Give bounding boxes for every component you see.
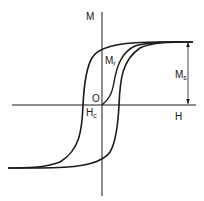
origin-label: O bbox=[92, 94, 100, 104]
h-axis-label: H bbox=[175, 112, 182, 122]
coercivity-label-sub: c bbox=[93, 112, 97, 119]
saturation-label-sub: s bbox=[183, 74, 187, 81]
arrow-down-icon bbox=[186, 99, 190, 104]
remanence-label-sub: r bbox=[113, 60, 115, 67]
coercivity-label: Hc bbox=[86, 108, 97, 119]
hysteresis-diagram bbox=[0, 0, 204, 201]
saturation-label: Ms bbox=[175, 70, 187, 81]
initial-magnetization-curve bbox=[102, 42, 180, 105]
remanence-label: Mr bbox=[105, 56, 116, 67]
m-axis-label: M bbox=[86, 12, 94, 22]
